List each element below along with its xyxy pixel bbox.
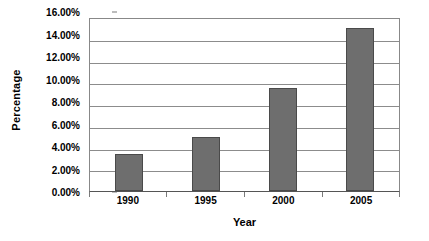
x-axis-title: Year	[89, 216, 400, 228]
bar-slot	[245, 19, 322, 191]
y-tick-label: 2.00%	[52, 164, 80, 175]
y-tick-label: 4.00%	[52, 142, 80, 153]
bar-slot	[90, 19, 167, 191]
x-tick-label-2000: 2000	[245, 195, 323, 206]
bar-1990[interactable]	[115, 154, 143, 191]
bar-1995[interactable]	[192, 137, 220, 191]
bar-slot	[167, 19, 244, 191]
y-tick-label: 10.00%	[46, 74, 80, 85]
y-tick-label: 8.00%	[52, 97, 80, 108]
bars-layer	[90, 19, 399, 191]
bar-2000[interactable]	[269, 88, 297, 191]
y-tick-label: 6.00%	[52, 119, 80, 130]
x-axis-tick-labels: 1990 1995 2000 2005	[89, 195, 400, 206]
bar-slot	[322, 19, 399, 191]
x-tick-label-1990: 1990	[89, 195, 167, 206]
y-tick-label: 12.00%	[46, 52, 80, 63]
plot-area	[89, 18, 400, 192]
y-axis-title-text: Percentage	[10, 69, 22, 130]
x-tick-label-1995: 1995	[167, 195, 245, 206]
x-tick-label-2005: 2005	[322, 195, 400, 206]
bar-chart: Percentage 16.00% 14.00% 12.00% 10.00% 8…	[0, 0, 429, 241]
y-tick-mark	[112, 12, 117, 13]
y-tick-label: 14.00%	[46, 29, 80, 40]
y-axis-tick-labels: 16.00% 14.00% 12.00% 10.00% 8.00% 6.00% …	[28, 12, 84, 192]
y-tick-label: 0.00%	[52, 187, 80, 198]
y-tick-label: 16.00%	[46, 7, 80, 18]
bar-2005[interactable]	[346, 28, 374, 191]
